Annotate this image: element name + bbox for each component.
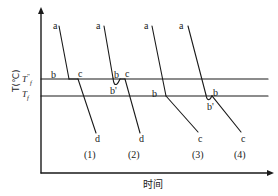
curve-point-label-a-9: a (144, 21, 148, 31)
temperature-label-sub: f (30, 79, 32, 86)
curve-point-label-c-11: c (198, 134, 202, 144)
sample-label-2: (2) (128, 150, 140, 160)
cooling-curve-2-cd (125, 79, 140, 133)
sample-label-4: (4) (234, 150, 246, 160)
x-axis-label: 时间 (143, 180, 163, 190)
cooling-curve-4-ab (188, 26, 206, 95)
curve-point-label-c-15: c (241, 134, 245, 144)
curve-point-label-c-2: c (78, 69, 82, 79)
cooling-curve-4-bc (212, 96, 241, 132)
temperature-label-tf: Tf (22, 90, 29, 101)
curve-point-label-b-prime-14: b' (207, 102, 214, 112)
cooling-curve-3-bc (166, 96, 198, 132)
sample-label-1: (1) (84, 150, 96, 160)
y-axis-arrow (38, 7, 44, 14)
figure-canvas (0, 0, 278, 196)
cooling-curve-figure: T(℃) 时间 T"fTf(1)(2)(3)(4)abcdabb'cdabcab… (0, 0, 278, 196)
temperature-label-tf-double-prime: T"f (22, 73, 32, 86)
curve-point-label-b-1: b (51, 70, 56, 80)
cooling-curve-1-ab (59, 26, 69, 79)
curve-point-label-c-7: c (125, 69, 129, 79)
temperature-label-sub: f (27, 94, 29, 101)
curve-point-label-a-12: a (179, 21, 183, 31)
curve-point-label-d-8: d (139, 134, 144, 144)
y-axis-label: T(℃) (12, 69, 21, 92)
curve-point-label-a-0: a (53, 21, 57, 31)
sample-label-3: (3) (192, 150, 204, 160)
cooling-curve-2-ab (104, 26, 113, 78)
curve-point-label-b-5: b (114, 70, 119, 80)
curve-point-label-b-prime-6: b' (110, 86, 117, 96)
curve-point-label-d-3: d (95, 134, 100, 144)
x-axis-arrow (267, 170, 274, 176)
curve-point-label-a-4: a (96, 21, 100, 31)
cooling-curve-3-ab (152, 26, 166, 96)
curve-point-label-b-13: b (213, 88, 218, 98)
cooling-curve-1-cd (78, 79, 96, 133)
curve-point-label-b-10: b (152, 89, 157, 99)
